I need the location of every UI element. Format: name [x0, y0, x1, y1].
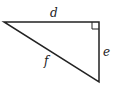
label-e: e [103, 45, 110, 59]
label-d: d [50, 6, 58, 20]
triangle [4, 22, 99, 82]
right-angle-marker [92, 22, 99, 29]
label-f: f [43, 54, 51, 68]
right-triangle-diagram: d e f [0, 0, 113, 87]
